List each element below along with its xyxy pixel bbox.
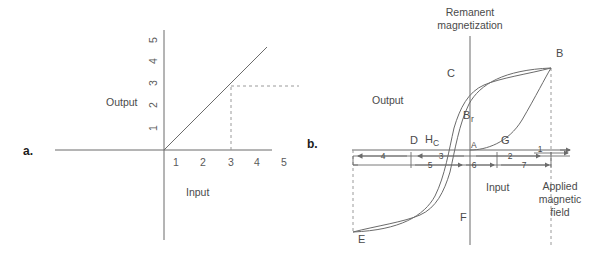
panel-b-id: b. (307, 137, 318, 151)
panel-b-x-axis-label: Applied magnetic field (539, 180, 582, 218)
segment-number-5: 5 (428, 160, 433, 170)
panel-b-input-label: Input (486, 181, 509, 193)
panel-b-point-label-B: B (556, 47, 563, 59)
panel-b-title-line1: Remanent (446, 6, 495, 18)
coercivity-symbol: H (425, 133, 433, 145)
panel-a-id: a. (23, 144, 33, 158)
panel-a-y-tick: 2 (147, 102, 159, 108)
applied-field-line3: field (550, 206, 569, 218)
segment-number-3: 3 (439, 151, 444, 161)
panel-a-y-tick: 3 (147, 80, 159, 86)
panel-b-point-label-E: E (358, 233, 365, 245)
panel-b-output-label: Output (372, 94, 404, 106)
segment-number-4: 4 (381, 151, 386, 161)
panel-a-x-axis-label: Input (186, 186, 209, 198)
segment-number-1: 1 (538, 144, 543, 154)
applied-field-line2: magnetic (539, 193, 582, 205)
panel-b-point-label-C: C (447, 67, 455, 79)
panel-b-segment-annotations: 4 3 2 1 5 6 7 (353, 144, 570, 170)
panel-a-y-axis-label: Output (106, 96, 138, 108)
panel-b-coercivity-label: H C (425, 133, 439, 148)
panel-a-y-tick: 5 (147, 37, 159, 43)
panel-b-origin-label: A (471, 140, 477, 150)
panel-b-initial-curve (470, 68, 551, 150)
coercivity-subscript: C (433, 138, 439, 148)
panel-a-x-tick: 5 (281, 156, 287, 168)
panel-a-x-tick: 3 (228, 156, 234, 168)
panel-a-transfer-line (164, 47, 267, 150)
panel-b-remanence-label: B r (463, 109, 474, 124)
panel-b-title-line2: magnetization (437, 19, 503, 31)
applied-field-line1: Applied (542, 180, 577, 192)
panel-a-x-ticks: 1 2 3 4 5 (173, 156, 287, 168)
panel-a-x-tick: 4 (254, 156, 260, 168)
segment-number-7: 7 (522, 160, 527, 170)
panel-a-y-ticks: 1 2 3 4 5 (147, 37, 159, 131)
segment-number-6: 6 (472, 160, 477, 170)
panel-a-y-tick: 1 (147, 125, 159, 131)
panel-b: b. Remanent magnetization B C D E F G A … (307, 6, 581, 245)
remanence-subscript: r (471, 114, 474, 124)
figure-container: a. 1 2 3 4 5 1 2 3 4 5 Output Input (0, 0, 599, 257)
panel-a-x-tick: 1 (173, 156, 179, 168)
panel-a: a. 1 2 3 4 5 1 2 3 4 5 Output Input (23, 30, 299, 240)
remanence-symbol: B (463, 109, 470, 121)
segment-number-2: 2 (508, 151, 513, 161)
panel-b-point-label-D: D (410, 134, 418, 146)
figure-svg: a. 1 2 3 4 5 1 2 3 4 5 Output Input (0, 0, 599, 257)
panel-a-y-tick: 4 (147, 58, 159, 64)
panel-b-point-label-G: G (501, 134, 510, 146)
panel-b-point-label-F: F (460, 211, 467, 223)
panel-a-x-tick: 2 (200, 156, 206, 168)
